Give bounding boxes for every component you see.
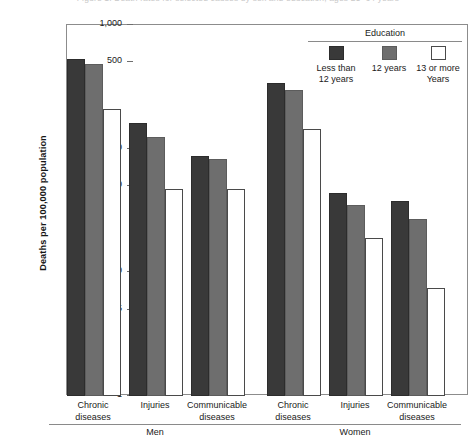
legend-swatch-12-years <box>382 46 397 60</box>
sex-group-label: Women <box>305 427 405 437</box>
bar <box>209 159 227 396</box>
y-tick-mark <box>127 61 133 62</box>
bar <box>191 156 209 396</box>
figure-chart: Figure 1. Death rates for selected cause… <box>0 0 476 442</box>
category-label-line1: Injuries <box>140 400 169 410</box>
bar <box>85 64 103 396</box>
legend-swatch-less-than-12-years <box>329 46 344 60</box>
bar <box>129 123 147 396</box>
legend-label: 13 or moreYears <box>412 63 464 85</box>
legend-label-line1: 13 or more <box>416 63 460 73</box>
legend-divider <box>308 41 462 42</box>
bar <box>227 189 245 396</box>
bar <box>409 219 427 396</box>
sex-group-label: Men <box>105 427 205 437</box>
sex-group-rule <box>249 424 461 425</box>
legend-item-less-than-12-years: Less than12 years <box>310 46 362 85</box>
category-label-line2: diseases <box>248 412 338 424</box>
bar <box>303 129 321 396</box>
category-label-line2: diseases <box>48 412 138 424</box>
legend-label: 12 years <box>363 63 415 74</box>
legend-label: Less than12 years <box>310 63 362 85</box>
figure-title-text: Figure 1. Death rates for selected cause… <box>77 0 399 3</box>
y-axis-title: Deaths per 100,000 population <box>38 98 48 308</box>
category-label-line1: Communicable <box>387 400 447 410</box>
legend-label-line1: 12 years <box>372 63 407 73</box>
cropped-figure-title: Figure 1. Death rates for selected cause… <box>0 0 476 11</box>
category-label-line1: Injuries <box>340 400 369 410</box>
bar <box>365 238 383 396</box>
legend-swatch-13-or-more-years <box>431 46 446 60</box>
legend-item-13-or-more-years: 13 or moreYears <box>412 46 464 85</box>
bar <box>103 109 121 396</box>
category-label-line1: Chronic <box>77 400 108 410</box>
bar <box>267 83 285 396</box>
y-tick-mark <box>127 24 133 25</box>
legend-title: Education <box>306 28 464 38</box>
category-label-line2: diseases <box>372 412 462 424</box>
category-label-line1: Communicable <box>187 400 247 410</box>
bar <box>347 205 365 396</box>
legend-item-12-years: 12 years <box>363 46 415 74</box>
category-label: Communicablediseases <box>372 400 462 423</box>
bar <box>329 193 347 396</box>
legend-label-line2: 12 years <box>310 74 362 85</box>
sex-group-rule <box>49 424 261 425</box>
bar <box>285 90 303 396</box>
legend-label-line2: Years <box>412 74 464 85</box>
category-label-line1: Chronic <box>277 400 308 410</box>
legend-label-line1: Less than <box>316 63 355 73</box>
legend: Education Less than12 years12 years13 or… <box>306 28 464 88</box>
bar <box>67 59 85 396</box>
bar <box>391 201 409 396</box>
bar <box>147 137 165 396</box>
bar <box>427 288 445 396</box>
bar <box>165 189 183 396</box>
y-tick-label: 1,000 <box>67 18 122 28</box>
